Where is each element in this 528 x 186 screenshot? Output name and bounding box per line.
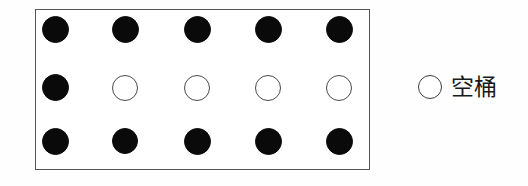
empty-circle-icon <box>112 75 138 101</box>
filled-circle-icon <box>255 16 282 43</box>
filled-circle-icon <box>112 128 138 154</box>
filled-circle-icon <box>42 74 69 101</box>
empty-circle-icon <box>326 75 352 101</box>
filled-circle-icon <box>42 16 69 43</box>
filled-circle-icon <box>255 128 282 155</box>
filled-circle-icon <box>184 16 211 43</box>
filled-circle-icon <box>42 128 69 155</box>
legend-item-label: 空桶 <box>451 76 497 99</box>
filled-circle-icon <box>326 128 353 155</box>
filled-circle-icon <box>184 128 211 155</box>
grid-container-box <box>35 9 370 170</box>
legend: 空桶 <box>418 70 497 104</box>
filled-circle-icon <box>326 16 353 43</box>
bucket-grid-figure: 空桶 <box>0 0 528 186</box>
empty-circle-icon <box>418 75 442 99</box>
filled-circle-icon <box>112 16 139 43</box>
empty-circle-icon <box>255 75 281 101</box>
empty-circle-icon <box>184 75 210 101</box>
